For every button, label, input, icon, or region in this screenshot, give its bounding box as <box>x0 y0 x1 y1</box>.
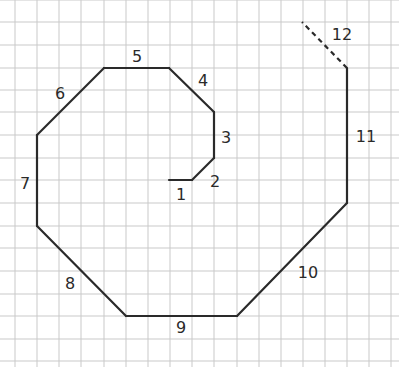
segment-label-7: 7 <box>20 174 30 193</box>
segment-label-6: 6 <box>55 84 65 103</box>
segment-10 <box>237 203 347 316</box>
segment-6 <box>37 68 104 135</box>
segment-label-4: 4 <box>198 71 208 90</box>
segment-label-8: 8 <box>65 274 75 293</box>
grid-background <box>0 0 399 367</box>
spiral-diagram: 123456789101112 <box>0 0 399 367</box>
segment-label-1: 1 <box>176 185 186 204</box>
segment-label-12: 12 <box>332 25 352 44</box>
segment-label-3: 3 <box>221 128 231 147</box>
segment-label-9: 9 <box>176 318 186 337</box>
segment-label-2: 2 <box>210 172 220 191</box>
segment-label-10: 10 <box>298 263 318 282</box>
segment-label-11: 11 <box>356 127 376 146</box>
segment-label-5: 5 <box>132 47 142 66</box>
